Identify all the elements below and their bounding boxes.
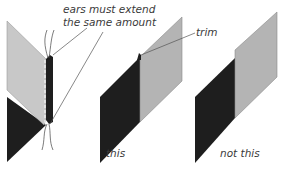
thread-ear-top-2: [49, 30, 54, 58]
light-panel: [140, 17, 182, 122]
figure-seam-detail: [7, 21, 103, 162]
caption-this: this: [106, 147, 126, 159]
trim-nub: [137, 53, 141, 60]
annotation-ears-line2: the same amount: [63, 16, 157, 28]
thread-ear-bottom-2: [49, 124, 53, 150]
dark-seam-strip: [46, 55, 53, 124]
light-panel: [235, 12, 277, 118]
annotation-trim: trim: [196, 26, 218, 38]
diagram-canvas: ears must extend the same amount this tr…: [0, 0, 284, 177]
leader-line-bottom: [50, 32, 103, 124]
leader-line-top: [53, 28, 87, 55]
figure-correct: this: [100, 17, 195, 163]
thread-ear-top-1: [45, 30, 48, 58]
caption-not-this: not this: [220, 147, 260, 159]
annotation-ears-line1: ears must extend: [63, 3, 156, 15]
